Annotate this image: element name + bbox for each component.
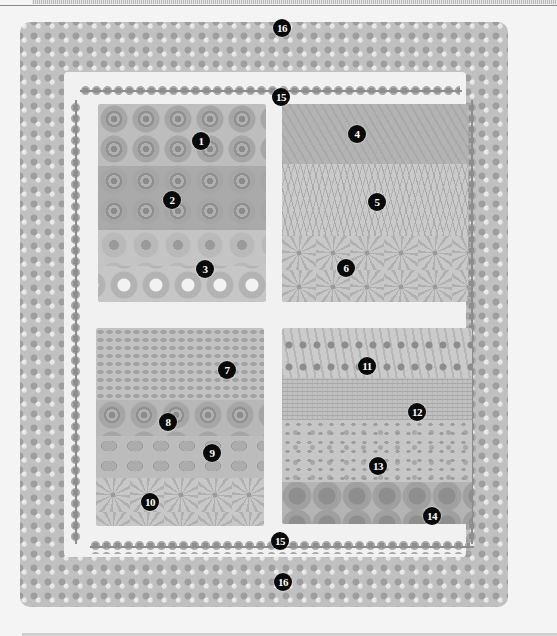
band-small-leaf [96, 328, 264, 400]
top-rule [0, 0, 557, 6]
band-spiky [96, 478, 264, 526]
marker-15-bottom: 15 [271, 532, 289, 550]
marker-3: 3 [196, 260, 214, 278]
band-roses-dark [98, 166, 266, 230]
marker-2: 2 [163, 191, 181, 209]
marker-5: 5 [368, 193, 386, 211]
band-roses [96, 400, 264, 436]
band-daisies [98, 230, 266, 266]
band-dotted-rows [282, 328, 472, 378]
band-leafy [282, 104, 468, 164]
marker-12: 12 [408, 403, 426, 421]
band-white-daisies [98, 266, 266, 302]
marker-16-bottom: 16 [274, 573, 292, 591]
band-dense [282, 482, 472, 524]
hedge-stem-top [80, 90, 462, 92]
marker-4: 4 [348, 125, 366, 143]
marker-1: 1 [192, 132, 210, 150]
bed-bottom-right [282, 328, 472, 524]
band-roses-light [98, 104, 266, 166]
marker-10: 10 [141, 493, 159, 511]
hedge-stem-left [75, 100, 77, 544]
marker-15-top: 15 [272, 88, 290, 106]
marker-11: 11 [358, 357, 376, 375]
marker-13: 13 [369, 457, 387, 475]
band-big-leaf [96, 436, 264, 478]
marker-7: 7 [218, 361, 236, 379]
band-spiky [282, 236, 468, 302]
marker-8: 8 [159, 413, 177, 431]
bed-top-left [98, 104, 266, 302]
marker-9: 9 [203, 444, 221, 462]
marker-16-top: 16 [273, 19, 291, 37]
marker-6: 6 [337, 259, 355, 277]
bed-bottom-left [96, 328, 264, 526]
marker-14: 14 [423, 507, 441, 525]
band-fine-foliage [282, 378, 472, 420]
